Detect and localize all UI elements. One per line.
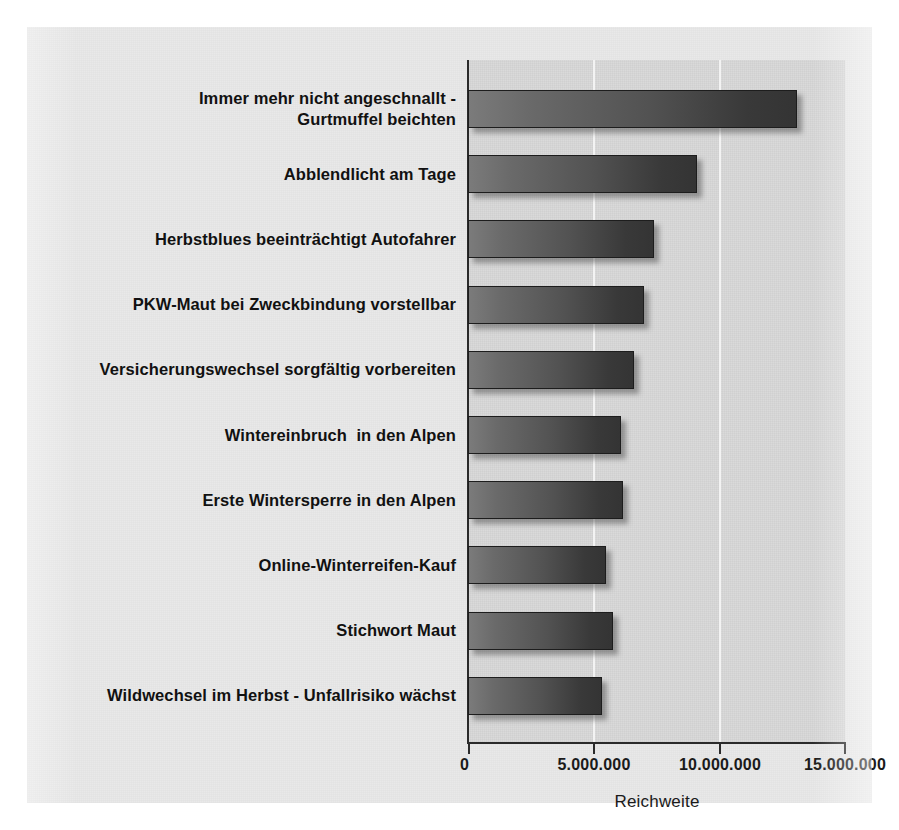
figure-panel: 0 5.000.000 10.000.000 15.000.000 Reichw… xyxy=(27,27,872,803)
category-label-5: Wintereinbruch in den Alpen xyxy=(56,425,456,446)
axis-tick-0 xyxy=(468,744,470,754)
bar-2 xyxy=(468,220,654,258)
chart-page: 0 5.000.000 10.000.000 15.000.000 Reichw… xyxy=(0,0,899,830)
category-label-4: Versicherungswechsel sorgfältig vorberei… xyxy=(56,359,456,380)
bar-7 xyxy=(468,546,606,584)
value-axis-line xyxy=(468,742,846,744)
axis-tick-5000000 xyxy=(593,744,595,754)
axis-tick-10000000 xyxy=(719,744,721,754)
category-label-8: Stichwort Maut xyxy=(56,620,456,641)
bar-9 xyxy=(468,677,602,715)
category-label-6: Erste Wintersperre in den Alpen xyxy=(56,490,456,511)
tick-label-0: 0 xyxy=(460,756,469,774)
category-label-7: Online-Winterreifen-Kauf xyxy=(56,555,456,576)
bar-5 xyxy=(468,416,621,454)
bar-1 xyxy=(468,155,697,193)
category-labels: Immer mehr nicht angeschnallt - Gurtmuff… xyxy=(52,60,456,742)
tick-label-5000000: 5.000.000 xyxy=(558,756,631,774)
bar-6 xyxy=(468,481,623,519)
bar-3 xyxy=(468,286,644,324)
category-label-3: PKW-Maut bei Zweckbindung vorstellbar xyxy=(56,294,456,315)
axis-tick-15000000 xyxy=(844,744,846,754)
x-axis-title: Reichweite xyxy=(468,792,846,812)
bar-8 xyxy=(468,612,613,650)
bar-0 xyxy=(468,90,797,128)
category-label-9: Wildwechsel im Herbst - Unfallrisiko wäc… xyxy=(56,685,456,706)
tick-label-15000000: 15.000.000 xyxy=(804,756,886,774)
category-label-1: Abblendlicht am Tage xyxy=(56,164,456,185)
category-label-2: Herbstblues beeinträchtigt Autofahrer xyxy=(56,229,456,250)
gridline-10000000 xyxy=(719,60,721,742)
tick-label-10000000: 10.000.000 xyxy=(679,756,761,774)
bar-4 xyxy=(468,351,634,389)
category-label-0: Immer mehr nicht angeschnallt - Gurtmuff… xyxy=(56,88,456,130)
